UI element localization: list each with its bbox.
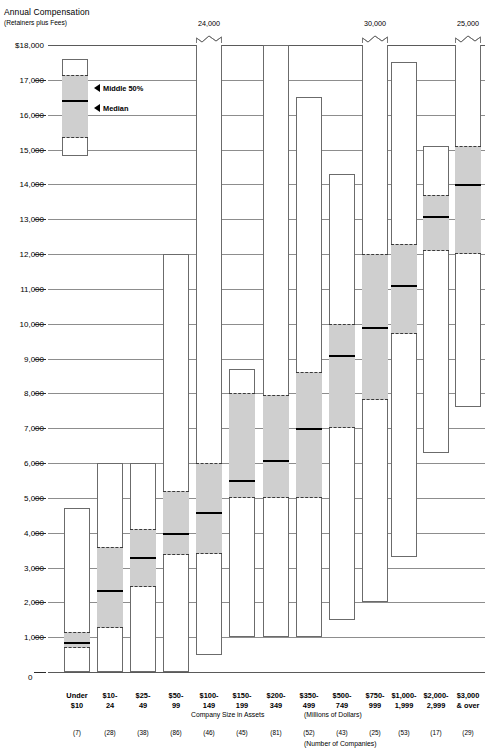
median-line <box>391 285 417 287</box>
axis-break-icon <box>455 32 481 43</box>
chart-container: Annual Compensation (Retainers plus Fees… <box>0 0 485 751</box>
x-axis-baseline <box>48 672 485 673</box>
x-axis-category-label: $150-199 <box>233 691 252 710</box>
median-line <box>263 460 289 462</box>
median-line <box>455 184 481 186</box>
x-axis-category-label: $25-49 <box>136 691 151 710</box>
x-axis-category: $150-199 <box>233 691 252 711</box>
box-column[interactable] <box>196 45 222 655</box>
x-axis-category: $200-349 <box>267 691 286 711</box>
x-axis-count-note: (Number of Companies) <box>304 740 377 747</box>
x-axis-company-count: (45) <box>236 729 247 736</box>
x-axis-category-label: $10-24 <box>103 691 118 710</box>
x-axis-company-count: (86) <box>170 729 181 736</box>
median-line <box>97 590 123 592</box>
y-axis-labels: $18,00017,00016,00015,00014,00013,00012,… <box>0 0 44 680</box>
x-axis-category: $10-24 <box>103 691 118 711</box>
axis-break-value-label: 25,000 <box>457 19 479 28</box>
y-axis-tick-mark <box>34 533 46 534</box>
interquartile-band <box>196 463 222 554</box>
x-axis-company-count: (46) <box>203 729 214 736</box>
x-axis-category: $350-499 <box>300 691 319 711</box>
box-column[interactable] <box>229 369 255 637</box>
x-axis-category: $1,000-1,999 <box>391 691 416 711</box>
median-line <box>329 355 355 357</box>
y-axis-tick-mark <box>34 289 46 290</box>
x-axis-units: (Millions of Dollars) <box>304 711 362 718</box>
y-axis-tick-mark <box>34 498 46 499</box>
box-column[interactable] <box>362 45 388 602</box>
y-axis-tick-mark <box>34 428 46 429</box>
legend-median-label: Median <box>103 103 128 112</box>
x-axis-company-count: (38) <box>137 729 148 736</box>
x-axis-category: Under$10 <box>66 691 87 711</box>
x-axis-company-count: (7) <box>73 729 81 736</box>
y-axis-tick-mark <box>34 324 46 325</box>
y-axis-tick-mark <box>34 80 46 81</box>
range-box <box>163 254 189 672</box>
y-axis-tick-mark <box>34 184 46 185</box>
x-axis-category-label: $500-749 <box>333 691 352 710</box>
box-column[interactable] <box>64 508 90 672</box>
y-axis-zero-label: 0 <box>28 673 32 682</box>
y-axis-tick-mark <box>34 359 46 360</box>
box-column[interactable] <box>391 62 417 557</box>
y-axis-tick-mark <box>34 115 46 116</box>
x-axis-category: $750-999 <box>366 691 385 711</box>
box-column[interactable] <box>329 174 355 620</box>
box-column[interactable] <box>130 463 156 672</box>
y-axis-tick-mark <box>34 254 46 255</box>
box-column[interactable] <box>97 463 123 672</box>
x-axis-category: $25-49 <box>136 691 151 711</box>
x-axis-category-label: $100-149 <box>200 691 219 710</box>
legend-middle50-arrow-icon <box>94 84 100 92</box>
interquartile-band <box>423 195 449 251</box>
y-axis-tick-mark <box>34 463 46 464</box>
x-axis-category-label: $50-99 <box>169 691 184 710</box>
median-line <box>163 533 189 535</box>
y-axis-tick-mark <box>34 568 46 569</box>
interquartile-band <box>263 395 289 498</box>
legend-median-line <box>62 100 88 102</box>
y-axis-tick-mark <box>34 150 46 151</box>
interquartile-band <box>329 324 355 429</box>
y-axis-tick-mark <box>34 602 46 603</box>
median-line <box>196 512 222 514</box>
legend-median-arrow-icon <box>94 104 100 112</box>
x-axis-category-label: $2,000-2,999 <box>423 691 448 710</box>
axis-break-icon <box>196 32 222 43</box>
interquartile-band <box>97 547 123 629</box>
interquartile-band <box>296 372 322 497</box>
interquartile-band <box>455 146 481 254</box>
x-axis-company-count: (43) <box>336 729 347 736</box>
y-axis-tick-mark <box>34 637 46 638</box>
x-axis-category-label: $1,000-1,999 <box>391 691 416 710</box>
range-box <box>263 45 289 637</box>
x-axis-category-label: $3,000& over <box>456 691 479 710</box>
x-axis-category: $3,000& over <box>456 691 479 711</box>
median-line <box>130 557 156 559</box>
axis-break-value-label: 24,000 <box>198 19 220 28</box>
median-line <box>296 428 322 430</box>
median-line <box>229 480 255 482</box>
plot-area: 24,00030,00025,000 <box>48 0 485 680</box>
box-column[interactable] <box>455 45 481 407</box>
x-axis-company-count: (53) <box>398 729 409 736</box>
x-axis-title: Company Size in Assets <box>191 711 264 718</box>
x-axis-category-label: $750-999 <box>366 691 385 710</box>
axis-break-value-label: 30,000 <box>364 19 386 28</box>
legend-middle50-label: Middle 50% <box>103 84 143 93</box>
median-line <box>64 642 90 644</box>
box-column[interactable] <box>263 45 289 637</box>
box-column[interactable] <box>163 254 189 672</box>
x-axis-company-count: (81) <box>270 729 281 736</box>
range-box <box>196 45 222 655</box>
interquartile-band <box>163 491 189 555</box>
box-column[interactable] <box>423 146 449 453</box>
x-axis-category: $2,000-2,999 <box>423 691 448 711</box>
legend-key <box>62 59 88 156</box>
box-column[interactable] <box>296 97 322 637</box>
y-axis-tick-label: $18,000 <box>15 41 44 50</box>
x-axis-category: $50-99 <box>169 691 184 711</box>
y-axis-tick-mark <box>34 219 46 220</box>
